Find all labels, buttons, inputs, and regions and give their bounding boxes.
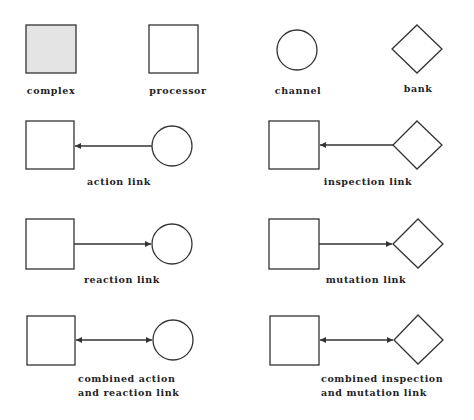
mutation-link-bank (393, 219, 443, 268)
inspection-link-processor (269, 121, 319, 169)
bank-label: bank (404, 82, 433, 95)
processor-label: processor (149, 84, 206, 97)
action-link-processor (26, 121, 74, 169)
complex-shape (26, 25, 76, 73)
inspection-link-label: inspection link (324, 175, 413, 188)
channel-label: channel (275, 84, 322, 97)
reaction-link-label: reaction link (84, 273, 160, 286)
combined-action-reaction-channel (153, 320, 193, 360)
action-link-channel (152, 126, 192, 166)
complex-label: complex (27, 84, 75, 97)
inspection-link-bank (393, 121, 442, 169)
reaction-link-processor (26, 219, 74, 269)
combined-inspection-mutation-label-line2: and mutation link (321, 386, 427, 399)
bank-shape (392, 25, 442, 73)
reaction-link-channel (152, 224, 192, 264)
combined-action-reaction-label-line2: and reaction link (78, 386, 179, 399)
processor-shape (149, 25, 198, 73)
diagram-canvas (0, 0, 474, 420)
action-link-label: action link (87, 175, 151, 188)
channel-shape (277, 30, 317, 70)
combined-action-reaction-label-line1: combined action (78, 372, 176, 385)
combined-inspection-mutation-label-line1: combined inspection (321, 372, 443, 385)
combined-inspection-mutation-processor (270, 316, 319, 365)
mutation-link-processor (269, 219, 319, 269)
mutation-link-label: mutation link (326, 273, 407, 286)
combined-action-reaction-processor (27, 316, 75, 365)
combined-inspection-mutation-bank (394, 315, 443, 364)
